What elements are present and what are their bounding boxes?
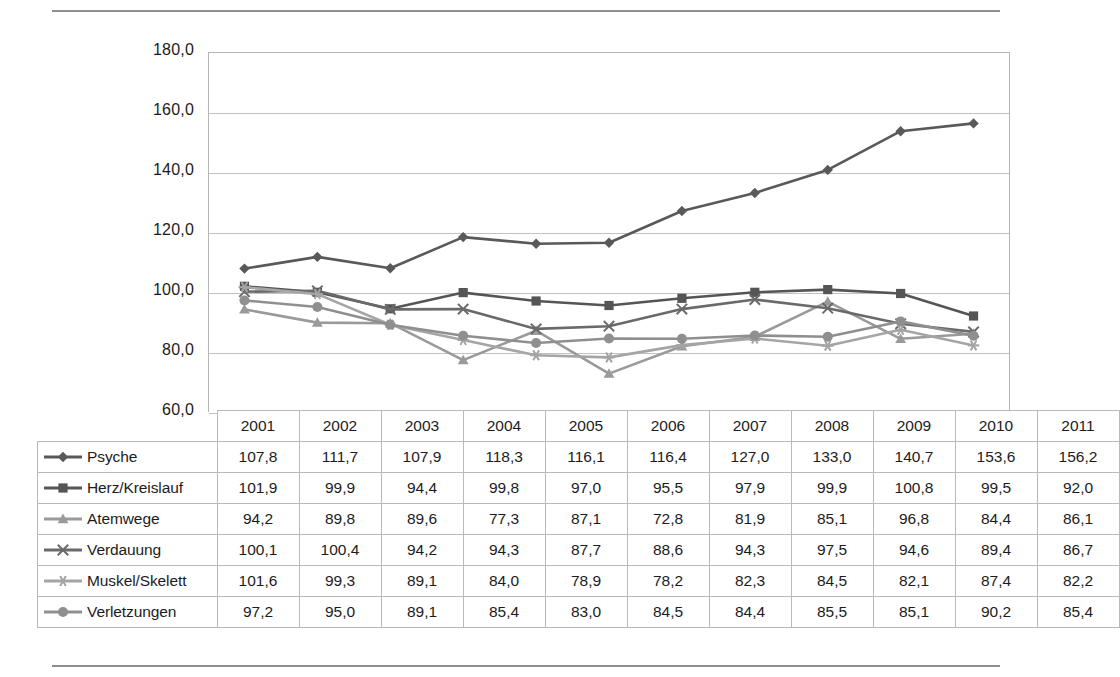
legend-entry-diamond: Psyche [38, 442, 218, 473]
data-point-circle-marker [531, 338, 541, 348]
data-point-diamond-marker [604, 238, 614, 248]
table-cell: 78,9 [545, 566, 627, 597]
legend-entry-label: Muskel/Skelett [87, 572, 186, 590]
legend-entry-inner: Verdauung [42, 541, 213, 559]
table-cell: 97,2 [217, 597, 299, 628]
table-cell: 85,4 [1037, 597, 1119, 628]
table-cell: 81,9 [709, 504, 791, 535]
table-cell: 89,8 [299, 504, 381, 535]
table-cell: 84,5 [791, 566, 873, 597]
series-data-table: 2001200220032004200520062007200820092010… [37, 410, 1120, 628]
table-cell: 99,9 [791, 473, 873, 504]
table-column-header: 2004 [463, 411, 545, 442]
table-cell: 99,9 [299, 473, 381, 504]
table-cell: 94,3 [463, 535, 545, 566]
table-cell: 97,0 [545, 473, 627, 504]
table-cell: 94,3 [709, 535, 791, 566]
table-cell: 82,1 [873, 566, 955, 597]
table-cell: 96,8 [873, 504, 955, 535]
legend-entry-label: Herz/Kreislauf [87, 479, 183, 497]
legend-entry-label: Atemwege [87, 510, 159, 528]
table-cell: 87,1 [545, 504, 627, 535]
table-cell: 111,7 [299, 442, 381, 473]
table-row: Verletzungen97,295,089,185,483,084,584,4… [38, 597, 1120, 628]
table-cell: 153,6 [955, 442, 1037, 473]
legend-entry-label: Verletzungen [87, 603, 176, 621]
legend-entry-asterisk: Muskel/Skelett [38, 566, 218, 597]
table-cell: 107,9 [381, 442, 463, 473]
y-axis-tick-label: 80,0 [88, 341, 194, 359]
table-cell: 84,0 [463, 566, 545, 597]
legend-marker-diamond-icon [42, 448, 84, 466]
data-point-diamond-marker [968, 118, 978, 128]
y-axis-tick-label: 100,0 [88, 281, 194, 299]
table-cell: 85,4 [463, 597, 545, 628]
series-line [239, 118, 978, 274]
table-cell: 95,5 [627, 473, 709, 504]
data-point-asterisk-marker [822, 341, 833, 351]
data-point-asterisk-marker [57, 576, 68, 586]
table-cell: 94,6 [873, 535, 955, 566]
y-axis-tick-label: 140,0 [88, 161, 194, 179]
legend-entry-inner: Muskel/Skelett [42, 572, 213, 590]
table-row: Verdauung100,1100,494,294,387,788,694,39… [38, 535, 1120, 566]
legend-entry-inner: Psyche [42, 448, 213, 466]
table-cell: 101,9 [217, 473, 299, 504]
table-column-header: 2002 [299, 411, 381, 442]
table-corner-cell [38, 411, 218, 442]
data-point-asterisk-marker [968, 341, 979, 351]
data-point-circle-marker [58, 607, 68, 617]
legend-entry-inner: Atemwege [42, 510, 213, 528]
table-column-header: 2006 [627, 411, 709, 442]
data-point-circle-marker [750, 331, 760, 341]
table-cell: 88,6 [627, 535, 709, 566]
table-cell: 100,1 [217, 535, 299, 566]
data-table-region: 2001200220032004200520062007200820092010… [37, 410, 1011, 628]
table-cell: 156,2 [1037, 442, 1119, 473]
data-point-circle-marker [239, 295, 249, 305]
table-row: Herz/Kreislauf101,999,994,499,897,095,59… [38, 473, 1120, 504]
table-cell: 133,0 [791, 442, 873, 473]
table-column-header: 2009 [873, 411, 955, 442]
data-point-diamond-marker [823, 165, 833, 175]
table-cell: 92,0 [1037, 473, 1119, 504]
table-cell: 85,1 [791, 504, 873, 535]
y-axis-tick-label: 180,0 [88, 41, 194, 59]
data-point-diamond-marker [750, 188, 760, 198]
table-cell: 100,4 [299, 535, 381, 566]
table-column-header: 2008 [791, 411, 873, 442]
data-point-square-marker [58, 483, 67, 492]
table-column-header: 2007 [709, 411, 791, 442]
table-cell: 99,5 [955, 473, 1037, 504]
legend-marker-triangle-icon [42, 510, 84, 528]
table-cell: 84,4 [709, 597, 791, 628]
y-axis-tick-label: 120,0 [88, 221, 194, 239]
y-axis-tick-label: 160,0 [88, 101, 194, 119]
table-cell: 85,1 [873, 597, 955, 628]
table-cell: 107,8 [217, 442, 299, 473]
data-point-square-marker [896, 289, 905, 298]
data-point-diamond-marker [458, 232, 468, 242]
table-cell: 89,6 [381, 504, 463, 535]
table-cell: 90,2 [955, 597, 1037, 628]
data-point-circle-marker [677, 334, 687, 344]
table-cell: 77,3 [463, 504, 545, 535]
data-point-square-marker [969, 311, 978, 320]
data-point-asterisk-marker [530, 350, 541, 360]
table-cell: 86,1 [1037, 504, 1119, 535]
table-header-row: 2001200220032004200520062007200820092010… [38, 411, 1120, 442]
table-cell: 116,1 [545, 442, 627, 473]
data-point-circle-marker [385, 320, 395, 330]
table-cell: 118,3 [463, 442, 545, 473]
data-point-diamond-marker [531, 239, 541, 249]
legend-entry-inner: Herz/Kreislauf [42, 479, 213, 497]
table-cell: 84,4 [955, 504, 1037, 535]
data-point-circle-marker [604, 334, 614, 344]
table-cell: 84,5 [627, 597, 709, 628]
legend-marker-circle-icon [42, 603, 84, 621]
table-column-header: 2003 [381, 411, 463, 442]
table-column-header: 2001 [217, 411, 299, 442]
table-cell: 99,3 [299, 566, 381, 597]
table-cell: 86,7 [1037, 535, 1119, 566]
